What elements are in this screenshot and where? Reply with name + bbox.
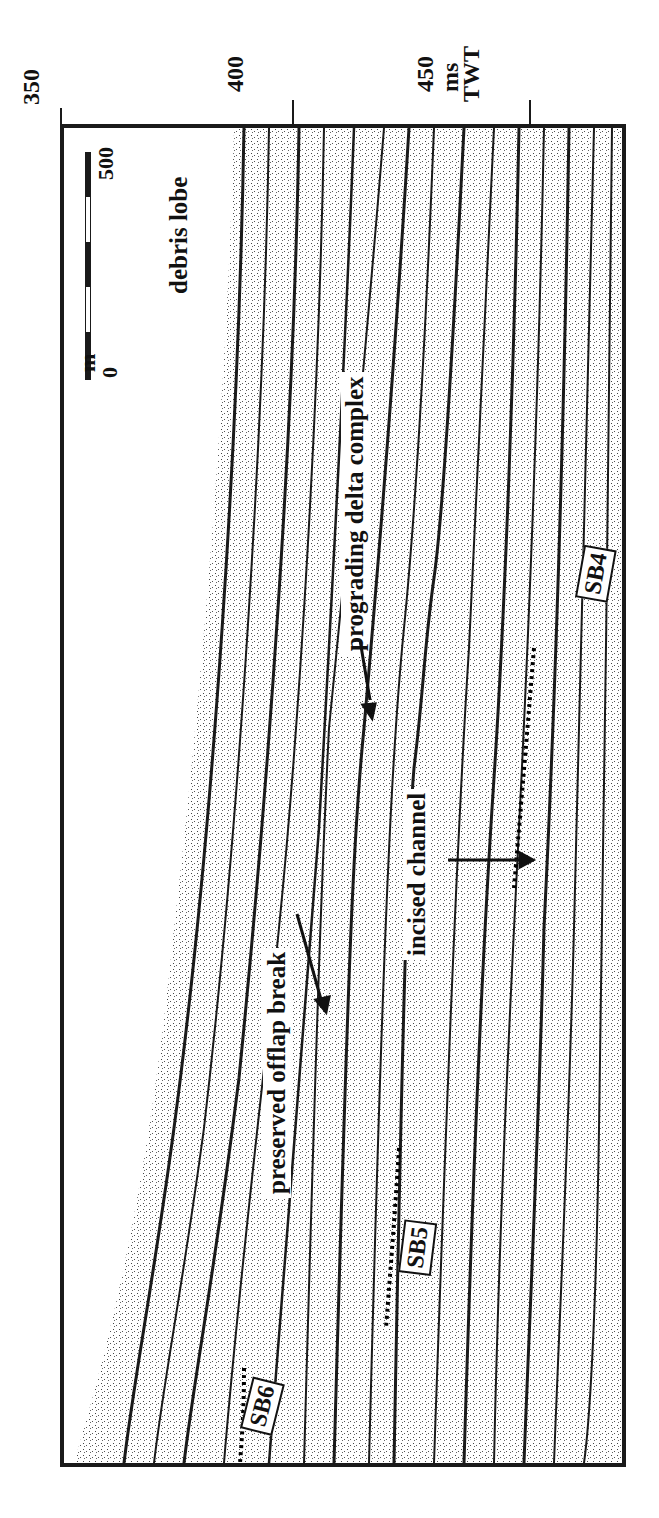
- offlap-arrow: [297, 914, 322, 1003]
- sb5-label: SB5: [398, 1219, 437, 1276]
- delta-arrow: [360, 640, 370, 700]
- annotation-arrows: [0, 0, 659, 1518]
